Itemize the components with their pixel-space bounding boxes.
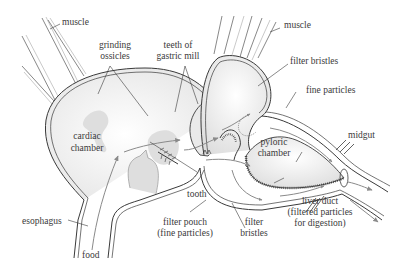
label-filter-pouch-line2: (fine particles) bbox=[150, 228, 220, 239]
label-pyloric-chamber-line1: pyloric bbox=[252, 137, 296, 148]
label-liver-duct-line3: for digestion) bbox=[282, 218, 358, 229]
foregut-diagram: muscle grinding ossicles teeth of gastri… bbox=[0, 0, 393, 274]
label-cardiac-chamber-line2: chamber bbox=[66, 143, 108, 154]
label-grinding-ossicles-line1: grinding bbox=[94, 40, 136, 51]
label-teeth-of-gastric-mill-line1: teeth of bbox=[150, 40, 206, 51]
label-cardiac-chamber-line1: cardiac bbox=[66, 131, 108, 142]
label-teeth-of-gastric-mill-line2: gastric mill bbox=[150, 51, 206, 62]
label-fine-particles: fine particles bbox=[306, 85, 355, 96]
label-muscle-left: muscle bbox=[62, 17, 89, 28]
label-food: food bbox=[82, 250, 99, 261]
label-filter-bristles-top: filter bristles bbox=[290, 56, 338, 67]
label-filter-bristles-bottom-line2: bristles bbox=[236, 228, 272, 239]
label-filter-pouch-line1: filter pouch bbox=[150, 217, 220, 228]
muscle-right-bundle bbox=[214, 16, 276, 60]
grinding-ossicle-right bbox=[148, 130, 179, 164]
label-esophagus: esophagus bbox=[22, 216, 62, 227]
label-muscle-right: muscle bbox=[284, 20, 311, 31]
label-pyloric-chamber-line2: chamber bbox=[252, 148, 296, 159]
label-liver-duct-line1: liver duct bbox=[282, 196, 358, 207]
label-grinding-ossicles-line2: ossicles bbox=[94, 51, 136, 62]
label-tooth: tooth bbox=[187, 189, 207, 200]
label-liver-duct-line2: (filtered particles bbox=[282, 207, 358, 218]
label-filter-bristles-bottom-line1: filter bbox=[236, 217, 272, 228]
label-midgut: midgut bbox=[348, 130, 375, 141]
